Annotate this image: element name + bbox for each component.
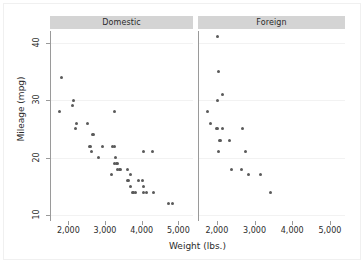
data-point	[116, 162, 119, 165]
data-point	[221, 93, 224, 96]
data-point	[110, 173, 113, 176]
x-tick-label: 2,000	[200, 226, 234, 235]
data-point	[97, 156, 100, 159]
data-point	[86, 122, 89, 125]
y-tick	[46, 43, 50, 44]
data-point	[113, 145, 116, 148]
x-tick	[142, 221, 143, 225]
data-point	[72, 99, 75, 102]
data-point	[101, 145, 104, 148]
data-point	[221, 127, 224, 130]
data-point	[152, 191, 155, 194]
x-tick-label: 4,000	[275, 226, 309, 235]
data-point	[206, 110, 209, 113]
data-point	[167, 202, 170, 205]
y-tick	[46, 215, 50, 216]
data-point	[244, 150, 247, 153]
data-point	[58, 110, 61, 113]
y-tick-label: 10	[32, 207, 41, 223]
gridline	[51, 158, 193, 159]
data-point	[129, 185, 132, 188]
gridline	[199, 158, 345, 159]
data-point	[89, 145, 92, 148]
gridline	[199, 43, 345, 44]
x-tick-label: 5,000	[161, 226, 195, 235]
data-point	[114, 156, 117, 159]
panel-axis-line-left	[198, 31, 199, 221]
x-tick-label: 5,000	[313, 226, 347, 235]
data-point	[134, 191, 137, 194]
figure-root: Domestic Foreign 10203040 Mileage (mpg) …	[0, 0, 364, 263]
x-tick	[255, 221, 256, 225]
data-point	[259, 173, 262, 176]
data-point	[240, 168, 243, 171]
gridline	[199, 100, 345, 101]
data-point	[60, 76, 63, 79]
data-point	[247, 173, 250, 176]
y-axis-line	[50, 31, 51, 221]
data-point	[151, 150, 154, 153]
data-point	[75, 122, 78, 125]
x-tick	[292, 221, 293, 225]
x-tick	[105, 221, 106, 225]
data-point	[228, 139, 231, 142]
y-tick	[46, 158, 50, 159]
plot-panel-domestic	[50, 31, 193, 221]
data-point	[269, 191, 272, 194]
data-point	[127, 179, 130, 182]
x-tick	[68, 221, 69, 225]
y-tick-label: 30	[32, 92, 41, 108]
x-tick	[217, 221, 218, 225]
data-point	[230, 168, 233, 171]
data-point	[141, 179, 144, 182]
panel-header-domestic: Domestic	[50, 16, 193, 29]
data-point	[119, 168, 122, 171]
data-point	[217, 150, 220, 153]
x-axis-title: Weight (lbs.)	[50, 241, 345, 251]
data-point	[216, 99, 219, 102]
x-tick-label: 3,000	[88, 226, 122, 235]
data-point	[129, 173, 132, 176]
data-point	[92, 133, 95, 136]
data-point	[209, 122, 212, 125]
data-point	[142, 150, 145, 153]
y-tick-label: 40	[32, 34, 41, 50]
data-point	[171, 202, 174, 205]
data-point	[241, 127, 244, 130]
data-point	[217, 70, 220, 73]
x-tick-label: 4,000	[125, 226, 159, 235]
gridline	[51, 215, 193, 216]
y-tick	[46, 100, 50, 101]
data-point	[113, 110, 116, 113]
data-point	[142, 185, 145, 188]
x-tick-label: 3,000	[238, 226, 272, 235]
data-point	[219, 139, 222, 142]
x-tick-label: 2,000	[51, 226, 85, 235]
panel-header-foreign: Foreign	[198, 16, 345, 29]
plot-panel-foreign	[198, 31, 345, 221]
data-point	[137, 179, 140, 182]
y-tick-label: 20	[32, 149, 41, 165]
data-point	[74, 127, 77, 130]
data-point	[145, 191, 148, 194]
data-point	[90, 150, 93, 153]
x-tick	[330, 221, 331, 225]
data-point	[71, 104, 74, 107]
x-tick	[178, 221, 179, 225]
gridline	[199, 215, 345, 216]
data-point	[216, 127, 219, 130]
data-point	[126, 168, 129, 171]
data-point	[216, 35, 219, 38]
gridline	[51, 43, 193, 44]
y-axis-title: Mileage (mpg)	[16, 54, 26, 164]
